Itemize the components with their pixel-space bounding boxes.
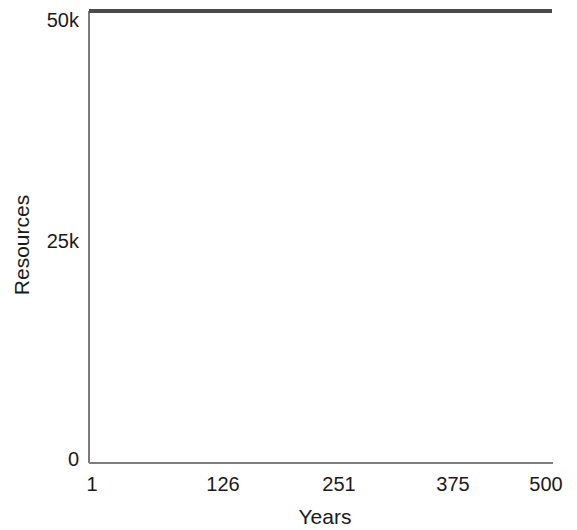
y-axis-title: Resources: [10, 195, 33, 295]
y-tick-label-25k: 25k: [47, 230, 80, 252]
y-tick-label-50k: 50k: [47, 9, 80, 31]
y-tick-label-0: 0: [68, 448, 79, 470]
x-tick-label-375: 375: [436, 473, 469, 495]
plot-area-background: [88, 0, 553, 463]
line-chart: 50k 25k 0 1 126 251 375 500 Years Resour…: [0, 0, 577, 530]
chart-container: 50k 25k 0 1 126 251 375 500 Years Resour…: [0, 0, 577, 530]
x-tick-label-1: 1: [86, 473, 97, 495]
x-tick-label-126: 126: [206, 473, 239, 495]
x-tick-label-500: 500: [529, 473, 562, 495]
x-tick-label-251: 251: [322, 473, 355, 495]
x-axis-title: Years: [299, 505, 352, 528]
